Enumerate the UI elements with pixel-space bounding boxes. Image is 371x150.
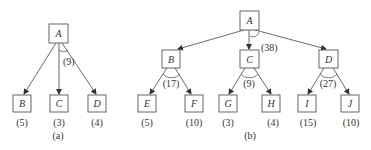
node-d: D [319,50,338,68]
node-h: H [262,95,280,112]
caption-a: (a) [52,130,63,142]
cost-g: (3) [222,117,234,129]
node-c: C [240,50,259,68]
svg-text:J: J [348,98,353,109]
edge-a-b [24,43,56,94]
svg-text:E: E [143,98,150,109]
cost-e: (5) [141,117,153,129]
arc-a [250,32,259,37]
cost-b: (5) [16,117,28,129]
svg-text:B: B [168,54,174,65]
node-a: A [240,11,259,30]
cost-c: (3) [53,117,65,129]
node-a: A [49,24,68,43]
node-f: F [185,95,203,112]
cost-j: (10) [343,117,360,129]
svg-text:A: A [54,28,62,39]
cost-f: (10) [186,117,203,129]
svg-text:C: C [56,98,63,109]
cost-b: (17) [163,78,180,90]
svg-text:C: C [246,54,253,65]
and-or-graph-figure: (9) A B (5) C (3) D (4) (a) (38) A [0,0,371,150]
cost-i: (15) [300,117,317,129]
svg-text:B: B [19,98,25,109]
figure-b: (38) A B (17) E (5) F (10) C [138,11,359,142]
cost-c: (9) [243,78,255,90]
node-c: C [50,95,68,112]
node-e: E [138,95,156,112]
node-b: B [13,95,31,112]
node-d: D [88,95,106,112]
node-j: J [341,95,359,112]
svg-text:F: F [190,98,198,109]
svg-text:D: D [324,54,333,65]
cost-h: (4) [267,117,279,129]
edge-a-b [178,30,244,49]
node-g: G [219,95,237,112]
cost-a: (38) [261,42,278,54]
svg-text:A: A [245,15,253,26]
and-arc-cost: (9) [63,56,75,68]
figure-a: (9) A B (5) C (3) D (4) (a) [13,24,106,142]
node-b: B [162,50,180,68]
svg-text:D: D [92,98,101,109]
edge-c-h [254,68,271,94]
svg-text:I: I [304,98,309,109]
cost-d: (27) [320,78,337,90]
caption-b: (b) [244,130,256,142]
svg-text:G: G [224,98,231,109]
node-i: I [298,95,316,112]
cost-d: (4) [91,117,103,129]
svg-text:H: H [266,98,275,109]
